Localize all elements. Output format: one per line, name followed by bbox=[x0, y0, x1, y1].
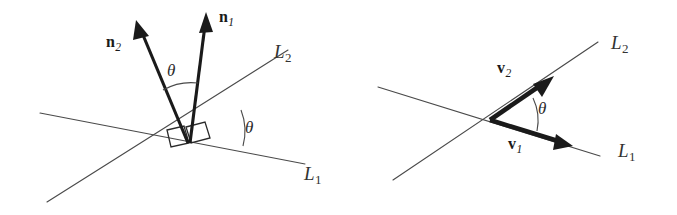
label-left-L1: L1 bbox=[304, 164, 322, 186]
left-line-L1 bbox=[40, 113, 305, 164]
figure-container: n2 n1 θ θ L2 L1 v2 v1 θ L2 L1 bbox=[0, 0, 677, 215]
right-vector-v2-shaft bbox=[490, 85, 541, 120]
label-v1: v1 bbox=[508, 136, 522, 155]
label-right-L1: L1 bbox=[618, 141, 636, 163]
label-n2: n2 bbox=[106, 34, 121, 53]
label-left-L2: L2 bbox=[274, 42, 292, 64]
label-theta-lines: θ bbox=[245, 119, 253, 136]
label-theta-normals: θ bbox=[167, 62, 175, 79]
left-vector-n1-arrowhead bbox=[199, 12, 213, 33]
right-vector-v1-arrowhead bbox=[553, 134, 573, 150]
left-vector-n2-arrowhead bbox=[133, 20, 149, 40]
left-panel-group bbox=[40, 12, 305, 202]
label-theta-vectors: θ bbox=[538, 100, 546, 117]
right-line-L2 bbox=[393, 42, 598, 180]
right-vector-v1-shaft bbox=[490, 120, 558, 141]
label-n1: n1 bbox=[219, 9, 234, 28]
label-right-L2: L2 bbox=[611, 33, 629, 55]
left-angle-arc-normals bbox=[163, 83, 198, 90]
right-panel-group bbox=[378, 42, 600, 180]
left-vector-n1-shaft bbox=[190, 25, 205, 143]
label-v2: v2 bbox=[497, 60, 511, 79]
geometry-diagram-svg bbox=[0, 0, 677, 215]
